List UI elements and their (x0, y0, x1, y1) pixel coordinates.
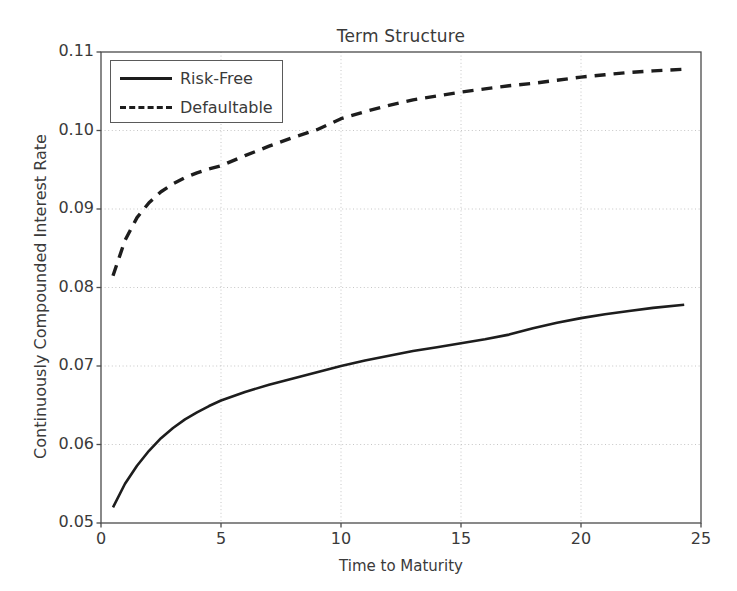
chart-legend[interactable]: Risk-Free Defaultable (110, 60, 283, 123)
y-tick-label: 0.09 (42, 198, 94, 217)
legend-item-defaultable[interactable]: Defaultable (111, 92, 282, 122)
y-tick-label: 0.06 (42, 434, 94, 453)
y-tick-label: 0.08 (42, 277, 94, 296)
series-lines (113, 69, 684, 507)
figure-canvas: Term Structure Continuously Compounded I… (0, 0, 737, 591)
x-tick-label: 10 (319, 529, 363, 548)
legend-item-risk-free[interactable]: Risk-Free (111, 63, 282, 93)
legend-line-solid-icon (120, 70, 172, 86)
legend-line-dashed-icon (120, 99, 172, 115)
y-tick-label: 0.10 (42, 120, 94, 139)
legend-label-defaultable: Defaultable (180, 98, 273, 117)
x-tick-label: 20 (559, 529, 603, 548)
x-tick-label: 25 (679, 529, 723, 548)
x-tick-label: 0 (79, 529, 123, 548)
y-tick-label: 0.11 (42, 41, 94, 60)
x-tick-label: 5 (199, 529, 243, 548)
axis-ticks (97, 52, 702, 528)
x-tick-label: 15 (439, 529, 483, 548)
series-line-risk-free (113, 305, 684, 508)
y-tick-label: 0.07 (42, 355, 94, 374)
legend-label-risk-free: Risk-Free (180, 69, 253, 88)
